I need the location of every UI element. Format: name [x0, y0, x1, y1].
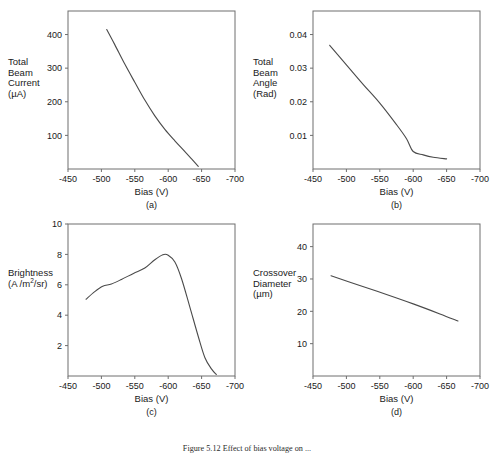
- svg-text:-450: -450: [304, 381, 322, 391]
- svg-text:-550: -550: [371, 174, 389, 184]
- svg-text:-700: -700: [226, 381, 244, 391]
- svg-text:20: 20: [297, 307, 307, 317]
- svg-text:0.03: 0.03: [289, 63, 307, 73]
- svg-text:2: 2: [57, 341, 62, 351]
- svg-text:-650: -650: [438, 174, 456, 184]
- svg-text:200: 200: [47, 97, 62, 107]
- y-axis-label-a: TotalBeamCurrent(µA): [8, 57, 40, 99]
- svg-text:10: 10: [52, 220, 62, 229]
- figure-container: -450-500-550-600-650-700100200300400Tota…: [0, 0, 494, 455]
- y-axis-label-line: Current: [8, 78, 40, 89]
- y-axis-label-line: (µm): [253, 289, 296, 300]
- svg-text:30: 30: [297, 274, 307, 284]
- svg-text:8: 8: [57, 250, 62, 260]
- x-axis-label-c: Bias (V): [68, 393, 235, 404]
- svg-text:0.04: 0.04: [289, 30, 307, 40]
- y-axis-label-line: (A /m2/sr): [8, 279, 53, 290]
- svg-text:4: 4: [57, 310, 62, 320]
- svg-text:-600: -600: [404, 174, 422, 184]
- x-axis-label-b: Bias (V): [313, 186, 480, 197]
- y-axis-label-line: (Rad): [253, 89, 278, 100]
- svg-text:-500: -500: [337, 381, 355, 391]
- svg-text:400: 400: [47, 30, 62, 40]
- x-axis-label-a: Bias (V): [68, 186, 235, 197]
- svg-text:-500: -500: [92, 381, 110, 391]
- panel-label-a: (a): [68, 200, 235, 210]
- svg-text:-550: -550: [126, 174, 144, 184]
- svg-text:100: 100: [47, 131, 62, 141]
- data-curve-b: [330, 45, 447, 159]
- plot-panel-d: -450-500-550-600-650-70010203040: [269, 220, 490, 392]
- svg-text:-550: -550: [371, 381, 389, 391]
- svg-text:-650: -650: [193, 381, 211, 391]
- y-axis-label-line: (µA): [8, 89, 40, 100]
- svg-text:10: 10: [297, 339, 307, 349]
- panel-label-b: (b): [313, 200, 480, 210]
- svg-text:40: 40: [297, 242, 307, 252]
- svg-text:-450: -450: [59, 174, 77, 184]
- svg-text:-700: -700: [226, 174, 244, 184]
- data-curve-a: [107, 29, 199, 166]
- svg-text:-600: -600: [404, 381, 422, 391]
- data-curve-c: [86, 254, 216, 374]
- svg-text:-500: -500: [92, 174, 110, 184]
- plot-panel-a: -450-500-550-600-650-700100200300400: [24, 7, 245, 185]
- figure-caption: Figure 5.12 Effect of bias voltage on ..…: [28, 444, 466, 453]
- svg-text:0.01: 0.01: [289, 131, 307, 141]
- y-axis-label-line: Total: [253, 57, 278, 68]
- svg-text:-700: -700: [471, 381, 489, 391]
- plot-panel-c: -450-500-550-600-650-700246810: [24, 220, 245, 392]
- panel-label-c: (c): [68, 407, 235, 417]
- svg-text:-500: -500: [337, 174, 355, 184]
- svg-text:-650: -650: [193, 174, 211, 184]
- plot-panel-b: -450-500-550-600-650-7000.010.020.030.04: [269, 7, 490, 185]
- y-axis-label-b: TotalBeamAngle(Rad): [253, 57, 278, 99]
- y-axis-label-line: Angle: [253, 78, 278, 89]
- data-curve-d: [331, 276, 458, 321]
- svg-text:300: 300: [47, 63, 62, 73]
- y-axis-label-line: Total: [8, 57, 40, 68]
- svg-text:-700: -700: [471, 174, 489, 184]
- svg-text:-650: -650: [438, 381, 456, 391]
- svg-text:-450: -450: [304, 174, 322, 184]
- svg-text:-450: -450: [59, 381, 77, 391]
- panel-label-d: (d): [313, 407, 480, 417]
- y-axis-label-c: Brightness(A /m2/sr): [8, 268, 53, 289]
- svg-text:-550: -550: [126, 381, 144, 391]
- svg-text:-600: -600: [159, 381, 177, 391]
- x-axis-label-d: Bias (V): [313, 393, 480, 404]
- y-axis-label-line: Crossover: [253, 268, 296, 279]
- svg-text:6: 6: [57, 280, 62, 290]
- svg-text:-600: -600: [159, 174, 177, 184]
- y-axis-label-d: CrossoverDiameter(µm): [253, 268, 296, 300]
- svg-text:0.02: 0.02: [289, 97, 307, 107]
